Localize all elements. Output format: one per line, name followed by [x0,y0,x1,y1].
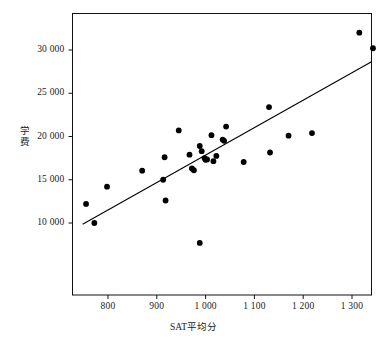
data-point [213,153,219,159]
scatter-plot-figure: 学费 SAT平均分 10 00015 00020 00025 00030 000… [0,0,387,344]
x-axis-ticks [108,295,352,299]
data-point [209,132,215,138]
data-point [83,201,89,207]
data-point [162,154,168,160]
plot-area-border [73,14,372,296]
data-point [139,168,145,174]
x-tick-label: 1 300 [322,301,382,311]
data-point [91,220,97,226]
data-point [267,150,273,156]
data-point [197,240,203,246]
y-tick-label: 30 000 [0,44,65,54]
data-point [204,157,210,163]
y-tick-label: 15 000 [0,174,65,184]
data-point [163,198,169,204]
data-point [266,104,272,110]
plot-frame [73,14,372,296]
data-point [211,158,217,164]
data-point [191,167,197,173]
y-tick-label: 25 000 [0,87,65,97]
data-point [197,143,203,149]
data-point [160,177,166,183]
data-point [199,148,205,154]
data-point [286,133,292,139]
y-tick-label: 20 000 [0,131,65,141]
data-point [187,152,193,158]
data-point [223,124,229,130]
data-point [370,45,376,51]
y-axis-ticks [69,50,73,223]
data-point [309,130,315,136]
y-tick-label: 10 000 [0,217,65,227]
data-point [221,138,227,144]
data-point [176,128,182,134]
x-axis-title: SAT平均分 [0,319,387,333]
data-point [104,184,110,190]
data-point [241,159,247,165]
data-point [356,30,362,36]
